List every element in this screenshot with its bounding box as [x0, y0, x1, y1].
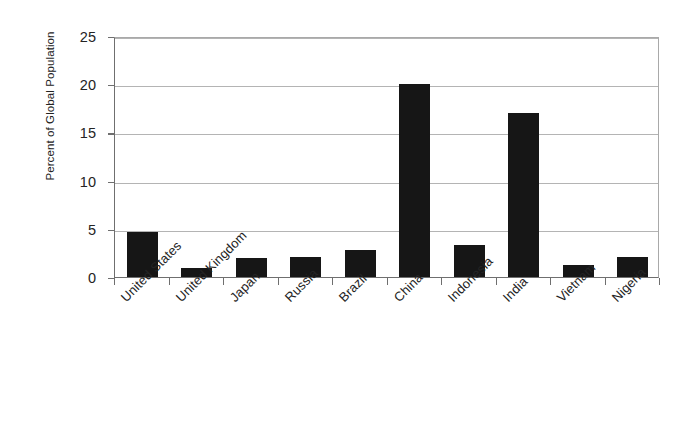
- x-axis-tick-mark: [332, 278, 333, 285]
- y-axis-tick-label: 10: [36, 174, 96, 190]
- gridline: [115, 86, 658, 87]
- x-axis-tick-label: India: [499, 274, 530, 305]
- y-axis-tick-label: 20: [36, 77, 96, 93]
- x-axis-tick-mark: [278, 278, 279, 285]
- y-axis-tick-label: 5: [36, 222, 96, 238]
- y-axis-tick-label: 0: [36, 270, 96, 286]
- plot-area: [114, 37, 659, 278]
- x-axis-tick-mark: [114, 278, 115, 285]
- gridline: [115, 231, 658, 232]
- x-axis-tick-mark: [387, 278, 388, 285]
- gridline: [115, 134, 658, 135]
- bar: [508, 113, 539, 277]
- x-axis-tick-mark: [496, 278, 497, 285]
- gridline: [115, 38, 658, 39]
- bar: [399, 84, 430, 277]
- x-axis-tick-mark: [550, 278, 551, 285]
- gridline: [115, 183, 658, 184]
- y-axis-tick-label: 15: [36, 125, 96, 141]
- x-axis-tick-mark: [441, 278, 442, 285]
- x-axis-tick-mark: [605, 278, 606, 285]
- bar-chart: Percent of Global Population 0510152025 …: [0, 0, 683, 439]
- x-axis-tick-mark: [223, 278, 224, 285]
- x-axis-tick-mark: [169, 278, 170, 285]
- x-axis-tick-mark: [659, 278, 660, 285]
- y-axis-tick-label: 25: [36, 29, 96, 45]
